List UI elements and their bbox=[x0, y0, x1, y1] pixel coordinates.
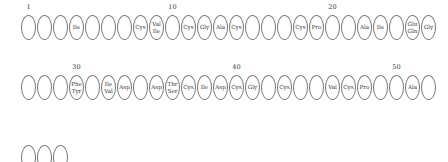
residue-label: Asp bbox=[151, 84, 162, 91]
residue-label: Ile bbox=[201, 84, 208, 91]
residue-label: Cys bbox=[183, 24, 193, 31]
residue-circle: Cys bbox=[277, 75, 292, 100]
residue-circle bbox=[325, 15, 340, 40]
residue-circle bbox=[245, 15, 260, 40]
residue-circle: Cys bbox=[133, 15, 148, 40]
residue-label: Cys bbox=[295, 24, 305, 31]
residue-circle bbox=[421, 75, 436, 100]
residue-label: Val bbox=[328, 84, 337, 91]
residue-label: Asp bbox=[119, 84, 130, 91]
residue-label: Val bbox=[152, 21, 161, 28]
position-marker: 10 bbox=[163, 3, 183, 11]
residue-label: Gln bbox=[408, 28, 418, 35]
position-marker: 20 bbox=[323, 3, 343, 11]
residue-circle: Asp bbox=[149, 75, 164, 100]
residue-circle: Cys bbox=[181, 75, 196, 100]
residue-circle bbox=[277, 15, 292, 40]
residue-label: Phe bbox=[71, 81, 82, 88]
residue-circle bbox=[21, 145, 36, 162]
residue-circle bbox=[85, 75, 100, 100]
residue-circle: PheTyr bbox=[69, 75, 84, 100]
residue-circle bbox=[133, 75, 148, 100]
residue-circle bbox=[389, 75, 404, 100]
residue-label: Asp bbox=[215, 84, 226, 91]
residue-label: Ile bbox=[73, 24, 80, 31]
residue-circle bbox=[293, 75, 308, 100]
sequence-row bbox=[21, 133, 448, 162]
residue-circle: Gly bbox=[421, 15, 436, 40]
residue-circle bbox=[101, 15, 116, 40]
residue-circle bbox=[53, 145, 68, 162]
residue-label: Cys bbox=[343, 84, 353, 91]
residue-circle: Cys bbox=[181, 15, 196, 40]
residue-circle bbox=[117, 15, 132, 40]
residue-circle bbox=[373, 75, 388, 100]
residue-circle bbox=[309, 75, 324, 100]
residue-label: Cys bbox=[279, 84, 289, 91]
residue-circle: Ile bbox=[373, 15, 388, 40]
residue-circle: Cys bbox=[293, 15, 308, 40]
residue-label: Ser bbox=[168, 88, 178, 95]
residue-label: Cys bbox=[231, 24, 241, 31]
residue-circle: ThrSer bbox=[165, 75, 180, 100]
residue-circle bbox=[53, 15, 68, 40]
residue-circle bbox=[21, 15, 36, 40]
residue-label: Thr bbox=[167, 81, 177, 88]
residue-circle bbox=[341, 15, 356, 40]
residue-label: Ala bbox=[216, 24, 225, 31]
residue-circle: Ala bbox=[213, 15, 228, 40]
residue-label: Gly bbox=[248, 84, 257, 91]
residue-circle: GluGln bbox=[405, 15, 420, 40]
residue-label: Gly bbox=[200, 24, 209, 31]
residue-circle: Cys bbox=[229, 15, 244, 40]
residue-label: Cys bbox=[135, 24, 145, 31]
residue-circle bbox=[389, 15, 404, 40]
residue-circle: ValIle bbox=[149, 15, 164, 40]
residue-label: Cys bbox=[183, 84, 193, 91]
residue-circle: Pro bbox=[357, 75, 372, 100]
residue-circle: Cys bbox=[229, 75, 244, 100]
position-marker: 30 bbox=[67, 63, 87, 71]
residue-circle: Pro bbox=[309, 15, 324, 40]
residue-circle bbox=[37, 145, 52, 162]
residue-label: Ile bbox=[377, 24, 384, 31]
residue-label: Cys bbox=[231, 84, 241, 91]
residue-circle: Asp bbox=[213, 75, 228, 100]
residue-label: Glu bbox=[408, 21, 418, 28]
residue-label: Ala bbox=[360, 24, 369, 31]
residue-circle bbox=[21, 75, 36, 100]
sequence-row: PheTyrIleValAspAspThrSerCysIleAspCysGlyC… bbox=[21, 63, 448, 103]
residue-circle: Ile bbox=[69, 15, 84, 40]
residue-circle bbox=[37, 75, 52, 100]
residue-label: Tyr bbox=[72, 88, 82, 95]
residue-circle bbox=[261, 15, 276, 40]
residue-label: Pro bbox=[312, 24, 322, 31]
residue-circle: Val bbox=[325, 75, 340, 100]
residue-circle: Cys bbox=[341, 75, 356, 100]
residue-circle: Ile bbox=[197, 75, 212, 100]
residue-label: Ile bbox=[153, 28, 160, 35]
residue-label: Val bbox=[104, 88, 113, 95]
residue-label: Pro bbox=[360, 84, 370, 91]
residue-circle: Ala bbox=[357, 15, 372, 40]
sequence-row: IleCysValIleCysGlyAlaCysCysProAlaIleGluG… bbox=[21, 3, 448, 43]
residue-label: Ile bbox=[105, 81, 112, 88]
residue-circle bbox=[165, 15, 180, 40]
residue-circle: Gly bbox=[245, 75, 260, 100]
residue-circle bbox=[261, 75, 276, 100]
residue-circle bbox=[85, 15, 100, 40]
residue-label: Gly bbox=[424, 24, 433, 31]
position-marker: 50 bbox=[387, 63, 407, 71]
residue-circle bbox=[53, 75, 68, 100]
residue-circle: IleVal bbox=[101, 75, 116, 100]
residue-circle: Ala bbox=[405, 75, 420, 100]
position-marker: 1 bbox=[19, 3, 39, 11]
position-marker: 40 bbox=[227, 63, 247, 71]
residue-label: Ala bbox=[408, 84, 417, 91]
residue-circle: Gly bbox=[197, 15, 212, 40]
residue-circle: Asp bbox=[117, 75, 132, 100]
residue-circle bbox=[37, 15, 52, 40]
